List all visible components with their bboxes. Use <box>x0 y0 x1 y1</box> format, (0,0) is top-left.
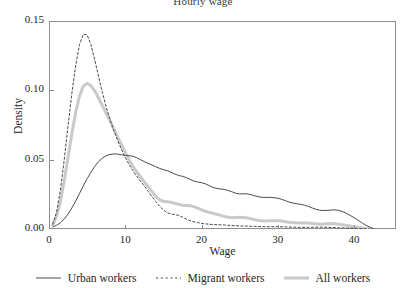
x-tick-label: 40 <box>334 233 374 245</box>
y-axis-label: Density <box>12 76 24 156</box>
y-tick-mark <box>50 160 54 161</box>
legend-label: Migrant workers <box>188 272 265 284</box>
x-tick-mark <box>278 225 279 229</box>
legend-item[interactable]: All workers <box>284 272 371 284</box>
x-tick-label: 30 <box>258 233 298 245</box>
thick-gray-line-icon <box>284 273 309 283</box>
legend-item[interactable]: Migrant workers <box>156 272 265 284</box>
x-tick-mark <box>202 225 203 229</box>
legend-item[interactable]: Urban workers <box>36 272 137 284</box>
x-tick-label: 0 <box>29 233 69 245</box>
dashed-line-icon <box>156 273 181 283</box>
y-tick-mark <box>50 90 54 91</box>
x-tick-mark <box>125 225 126 229</box>
x-tick-label: 10 <box>105 233 145 245</box>
legend-label: Urban workers <box>68 272 137 284</box>
x-tick-mark <box>354 225 355 229</box>
legend-label: All workers <box>316 272 371 284</box>
chart-page: Hourly wage 0.000.050.100.15 010203040 D… <box>0 0 406 288</box>
y-tick-label: 0.00 <box>0 221 44 233</box>
x-tick-mark <box>49 225 50 229</box>
x-axis-label: Wage <box>49 245 396 257</box>
chart-legend: Urban workersMigrant workersAll workers <box>0 268 406 288</box>
x-tick-label: 20 <box>182 233 222 245</box>
y-tick-label: 0.15 <box>0 13 44 25</box>
solid-thin-line-icon <box>36 273 61 283</box>
